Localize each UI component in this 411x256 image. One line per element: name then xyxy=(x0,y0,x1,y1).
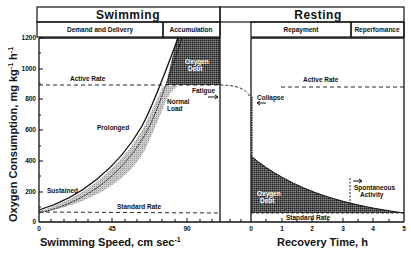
collapse-connector xyxy=(220,85,250,97)
resting-header: Resting xyxy=(294,8,342,22)
oxygen-debt-label-left-2: Debt xyxy=(188,65,203,72)
active-rate-label-left: Active Rate xyxy=(70,75,106,82)
svg-text:600: 600 xyxy=(25,126,36,133)
prolonged-label: Prolonged xyxy=(97,124,129,132)
standard-rate-label-left: Standard Rate xyxy=(117,203,161,210)
x-tick-labels-right: 0 1 2 3 4 5 xyxy=(249,225,406,232)
svg-text:45: 45 xyxy=(108,225,116,232)
oxygen-debt-label-right-2: Debt xyxy=(260,197,275,204)
swimming-header: Swimming xyxy=(96,8,160,22)
svg-text:90: 90 xyxy=(183,225,191,232)
x-axis-label-left: Swimming Speed, cm sec-1 xyxy=(40,236,181,248)
sustained-label: Sustained xyxy=(47,187,78,194)
svg-text:1: 1 xyxy=(280,225,284,232)
svg-text:0: 0 xyxy=(249,225,253,232)
resting-panel: Resting Repayment Reperfomance Collapse … xyxy=(220,7,406,248)
y-tick-labels: 1200 1000 800 600 400 200 0 xyxy=(22,34,37,225)
reperformance-label: Reperfomance xyxy=(354,26,400,34)
svg-text:0: 0 xyxy=(32,218,36,225)
y-axis-label: Oxygen Consumption, mg kg-1 h-1 xyxy=(7,47,19,222)
svg-text:0: 0 xyxy=(37,225,41,232)
load-label: Load xyxy=(167,105,183,112)
collapse-label: Collapse xyxy=(257,94,284,102)
standard-rate-label-right: Standard Rate xyxy=(286,214,330,221)
svg-text:200: 200 xyxy=(25,188,36,195)
demand-delivery-label: Demand and Delivery xyxy=(67,26,133,34)
active-rate-label-right: Active Rate xyxy=(303,76,339,83)
fatigue-label: Fatigue xyxy=(192,87,215,95)
collapse-arrow-icon xyxy=(257,101,266,105)
svg-text:5: 5 xyxy=(402,225,406,232)
fatigue-arrow-icon xyxy=(208,95,218,99)
svg-text:4: 4 xyxy=(371,225,375,232)
spontaneous-arrow-icon xyxy=(353,179,362,183)
x-tick-labels-left: 0 45 90 xyxy=(37,225,191,232)
svg-text:1200: 1200 xyxy=(22,34,37,41)
svg-text:800: 800 xyxy=(25,95,36,102)
svg-text:400: 400 xyxy=(25,157,36,164)
svg-text:3: 3 xyxy=(341,225,345,232)
accumulation-label: Accumulation xyxy=(170,26,213,33)
oxygen-consumption-chart: Swimming Demand and Delivery Accumulatio… xyxy=(0,0,411,256)
repayment-label: Repayment xyxy=(283,26,319,34)
svg-text:2: 2 xyxy=(310,225,314,232)
svg-text:1000: 1000 xyxy=(22,65,37,72)
x-axis-label-right: Recovery Time, h xyxy=(277,236,368,248)
swimming-panel: Swimming Demand and Delivery Accumulatio… xyxy=(22,7,250,248)
standard-rate-line-left xyxy=(39,212,220,213)
normal-label: Normal xyxy=(167,98,190,105)
activity-label: Activity xyxy=(360,191,384,199)
